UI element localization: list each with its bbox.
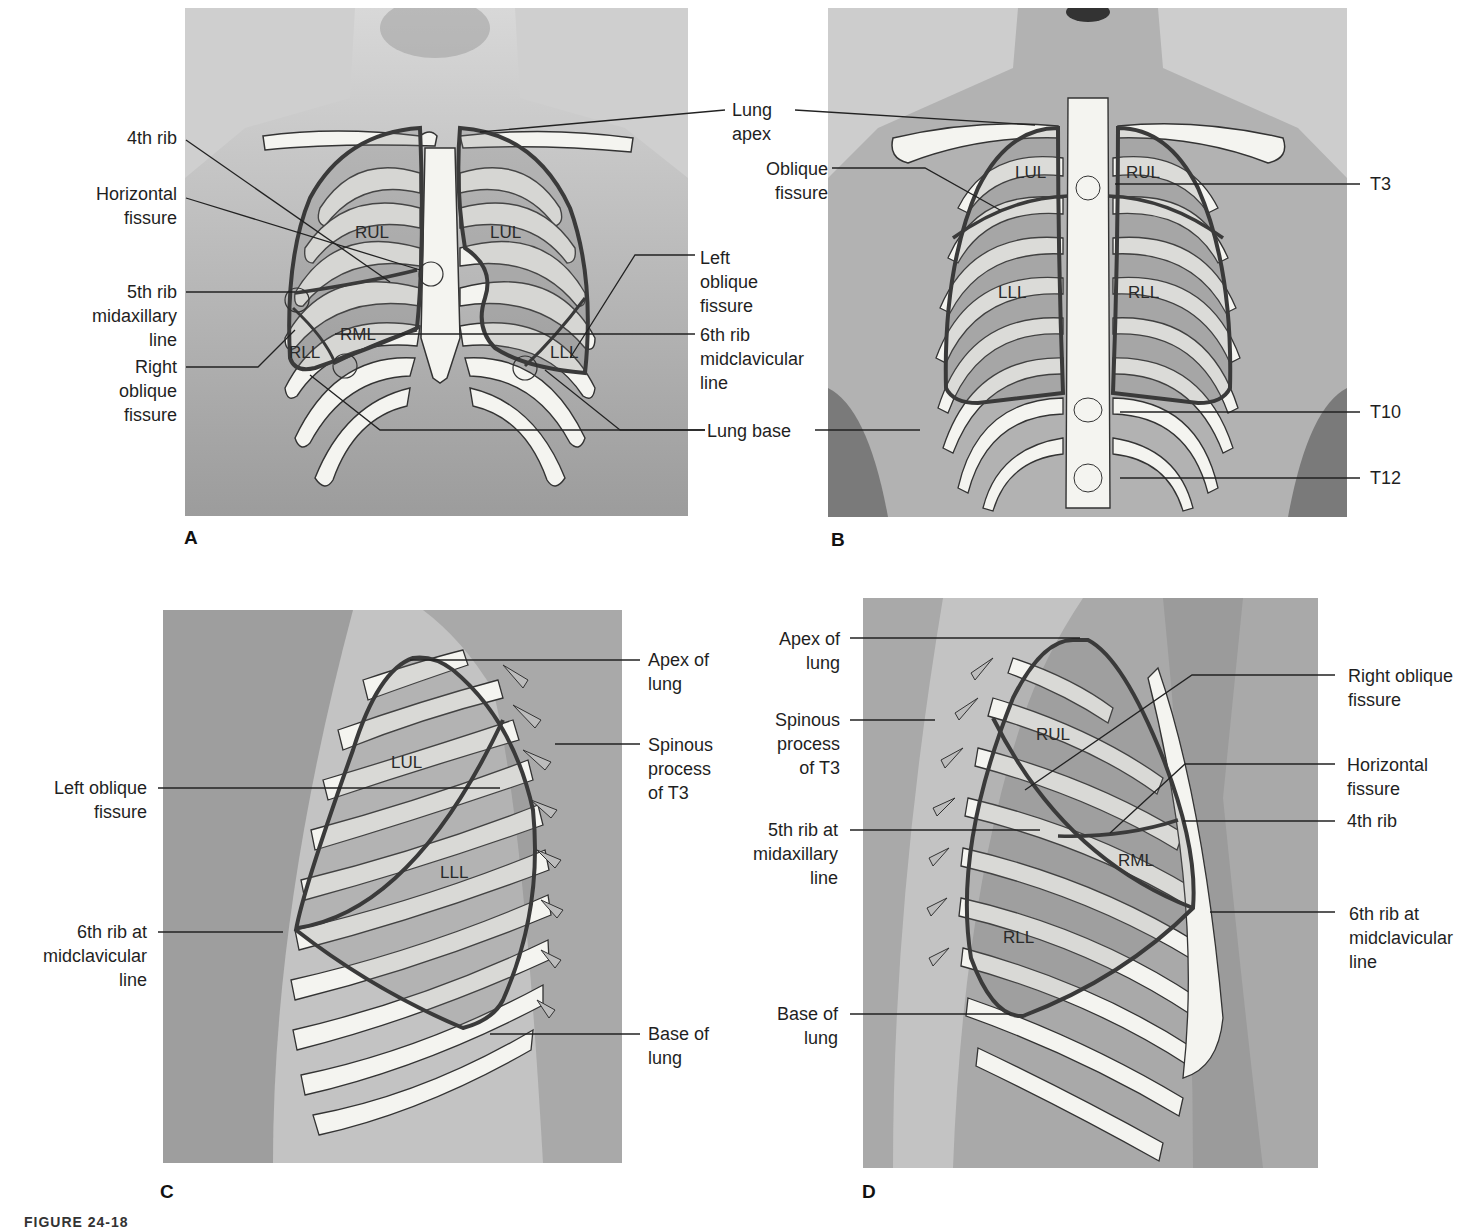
label-6th-rib-at-midclavicular-line-c: 6th rib at midclavicular line bbox=[43, 920, 147, 992]
lobe-label-lul: LUL bbox=[1015, 163, 1046, 182]
lobe-label-rul: RUL bbox=[1126, 163, 1160, 182]
panel-letter-c: C bbox=[160, 1181, 174, 1203]
label-6th-rib-midclavicular-line: 6th rib midclavicular line bbox=[700, 323, 804, 395]
panel-letter-a: A bbox=[184, 527, 198, 549]
label-t10: T10 bbox=[1370, 400, 1401, 424]
label-base-of-lung-d: Base of lung bbox=[777, 1002, 838, 1050]
figure-caption: FIGURE 24-18 bbox=[24, 1214, 129, 1230]
left-lateral-illustration: LUL LLL bbox=[163, 610, 622, 1163]
right-lateral-illustration: RUL RML RLL bbox=[863, 598, 1318, 1168]
lobe-label-lll: LLL bbox=[550, 343, 578, 362]
label-lung-base: Lung base bbox=[707, 419, 791, 443]
lobe-label-rml: RML bbox=[1118, 851, 1154, 870]
panel-b-posterior-view: LUL RUL LLL RLL bbox=[828, 8, 1347, 517]
label-6th-rib-at-midclavicular-line-d: 6th rib at midclavicular line bbox=[1349, 902, 1453, 974]
panel-letter-d: D bbox=[862, 1181, 876, 1203]
label-4th-rib: 4th rib bbox=[127, 126, 177, 150]
lobe-label-lul: LUL bbox=[490, 223, 521, 242]
lobe-label-rul: RUL bbox=[355, 223, 389, 242]
panel-letter-b: B bbox=[831, 529, 845, 551]
label-5th-rib-midaxillary-line: 5th rib midaxillary line bbox=[92, 280, 177, 352]
lobe-label-rul: RUL bbox=[1036, 725, 1070, 744]
label-base-of-lung-c: Base of lung bbox=[648, 1022, 709, 1070]
label-lung-apex: Lung apex bbox=[732, 98, 772, 146]
label-oblique-fissure: Oblique fissure bbox=[766, 157, 828, 205]
lobe-label-lul: LUL bbox=[391, 753, 422, 772]
lobe-label-rll: RLL bbox=[1003, 928, 1034, 947]
label-apex-of-lung-c: Apex of lung bbox=[648, 648, 709, 696]
panel-a-anterior-view: RUL LUL RML RLL LLL bbox=[185, 8, 688, 516]
label-horizontal-fissure-d: Horizontal fissure bbox=[1347, 753, 1428, 801]
label-left-oblique-fissure-c: Left oblique fissure bbox=[54, 776, 147, 824]
lobe-label-rll: RLL bbox=[1128, 283, 1159, 302]
label-right-oblique-fissure-d: Right oblique fissure bbox=[1348, 664, 1453, 712]
label-t12: T12 bbox=[1370, 466, 1401, 490]
panel-d-right-lateral-view: RUL RML RLL bbox=[863, 598, 1318, 1168]
label-5th-rib-at-midaxillary-line-d: 5th rib at midaxillary line bbox=[753, 818, 838, 890]
lobe-label-rll: RLL bbox=[289, 343, 320, 362]
lobe-label-rml: RML bbox=[340, 325, 376, 344]
anterior-chest-illustration: RUL LUL RML RLL LLL bbox=[185, 8, 688, 516]
lobe-label-lll: LLL bbox=[998, 283, 1026, 302]
posterior-back-illustration: LUL RUL LLL RLL bbox=[828, 8, 1347, 517]
label-spinous-process-of-t3-d: Spinous process of T3 bbox=[775, 708, 840, 780]
label-spinous-process-of-t3-c: Spinous process of T3 bbox=[648, 733, 713, 805]
label-apex-of-lung-d: Apex of lung bbox=[779, 627, 840, 675]
label-t3: T3 bbox=[1370, 172, 1391, 196]
lobe-label-lll: LLL bbox=[440, 863, 468, 882]
label-4th-rib-d: 4th rib bbox=[1347, 809, 1397, 833]
label-right-oblique-fissure: Right oblique fissure bbox=[119, 355, 177, 427]
label-left-oblique-fissure: Left oblique fissure bbox=[700, 246, 758, 318]
label-horizontal-fissure: Horizontal fissure bbox=[96, 182, 177, 230]
panel-c-left-lateral-view: LUL LLL bbox=[163, 610, 622, 1163]
